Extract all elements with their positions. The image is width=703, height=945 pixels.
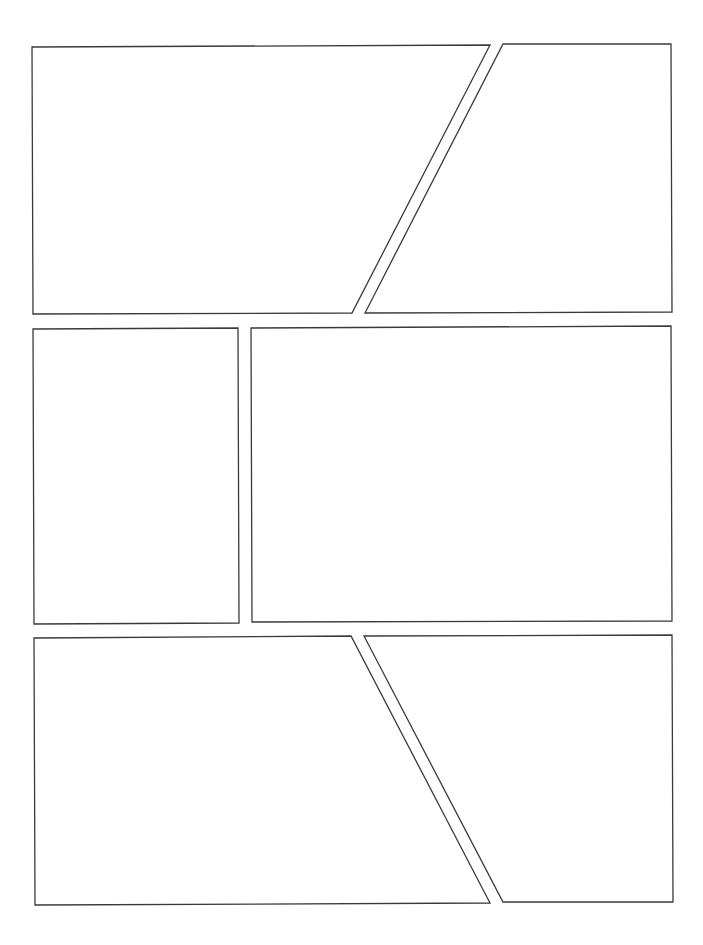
panel-4[interactable] xyxy=(251,326,672,622)
panel-3[interactable] xyxy=(33,328,239,624)
comic-page xyxy=(0,0,703,945)
panel-layout xyxy=(0,0,703,945)
